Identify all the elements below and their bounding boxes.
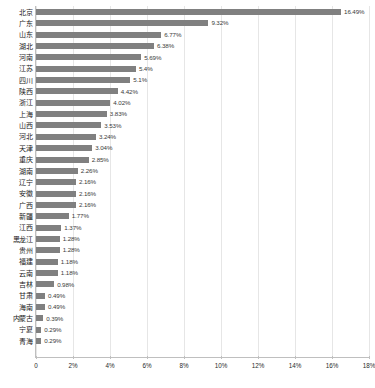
- x-tick-label: 16%: [326, 362, 339, 369]
- bar-row: 2.26%: [36, 166, 369, 177]
- bar-row: 0.49%: [36, 302, 369, 313]
- bar-row: 6.38%: [36, 41, 369, 52]
- category-label: 陕西: [19, 86, 33, 97]
- bar: [36, 213, 69, 219]
- x-axis-tick-labels: 02%4%6%8%10%12%14%16%18%: [36, 360, 369, 376]
- bar-row: 9.32%: [36, 18, 369, 29]
- x-tick-label: 18%: [363, 362, 375, 369]
- bar: [36, 88, 118, 94]
- bar-value-label: 3.83%: [110, 108, 127, 119]
- bar-row: 1.18%: [36, 268, 369, 279]
- bar: [36, 270, 58, 276]
- x-tickmark-16: [332, 356, 333, 359]
- x-tick-label: 4%: [105, 362, 114, 369]
- x-tick-label: 8%: [179, 362, 188, 369]
- bar-value-label: 0.49%: [48, 290, 65, 301]
- x-tick-label: 6%: [142, 362, 151, 369]
- bar-row: 1.28%: [36, 234, 369, 245]
- bar-value-label: 6.38%: [157, 40, 174, 51]
- bar: [36, 100, 110, 106]
- bar: [36, 281, 54, 287]
- x-tickmark-14: [295, 356, 296, 359]
- bar-row: 2.16%: [36, 200, 369, 211]
- bar: [36, 259, 58, 265]
- x-tickmark-12: [258, 356, 259, 359]
- bar-value-label: 5.69%: [144, 52, 161, 63]
- bar-value-label: 1.28%: [63, 244, 80, 255]
- bar-value-label: 1.18%: [61, 256, 78, 267]
- bar-row: 2.16%: [36, 177, 369, 188]
- bar: [36, 315, 43, 321]
- bar-row: 2.16%: [36, 188, 369, 199]
- category-label: 重庆: [19, 154, 33, 165]
- gridline-18: [369, 6, 370, 358]
- category-label: 安徽: [19, 188, 33, 199]
- bar-row: 1.37%: [36, 222, 369, 233]
- x-tick-label: 14%: [289, 362, 302, 369]
- bar-row: 0.49%: [36, 290, 369, 301]
- bar-row: 5.1%: [36, 75, 369, 86]
- category-label: 贵州: [19, 245, 33, 256]
- category-label: 内蒙古: [13, 313, 33, 324]
- bar-row: 5.4%: [36, 63, 369, 74]
- bar-value-label: 0.49%: [48, 301, 65, 312]
- category-label: 江西: [19, 222, 33, 233]
- category-axis-labels: 北京广东山东湖北河南江苏四川陕西浙江上海山西河北天津重庆湖南辽宁安徽广西新疆江西…: [0, 6, 33, 358]
- bar-row: 0.98%: [36, 279, 369, 290]
- bar: [36, 145, 92, 151]
- bar-value-label: 2.16%: [79, 188, 96, 199]
- x-tickmark-2: [73, 356, 74, 359]
- bar: [36, 66, 136, 72]
- bar-value-label: 0.98%: [57, 279, 74, 290]
- category-label: 山东: [19, 29, 33, 40]
- bar: [36, 111, 107, 117]
- bar: [36, 20, 208, 26]
- bar: [36, 191, 76, 197]
- category-label: 辽宁: [19, 177, 33, 188]
- x-tickmark-18: [369, 356, 370, 359]
- bar-value-label: 1.18%: [61, 267, 78, 278]
- bar-row: 1.77%: [36, 211, 369, 222]
- x-axis-line: [35, 357, 369, 358]
- bar-row: 16.49%: [36, 7, 369, 18]
- bar-value-label: 0.39%: [46, 313, 63, 324]
- x-tickmark-0: [36, 356, 37, 359]
- category-label: 海南: [19, 302, 33, 313]
- category-label: 湖南: [19, 166, 33, 177]
- bar-value-label: 0.29%: [44, 324, 61, 335]
- bar-value-label: 4.02%: [113, 97, 130, 108]
- bar-value-label: 1.28%: [63, 233, 80, 244]
- bar-value-label: 6.77%: [164, 29, 181, 40]
- bar-value-label: 16.49%: [344, 6, 364, 17]
- bar-row: 0.39%: [36, 313, 369, 324]
- category-label: 天津: [19, 143, 33, 154]
- bar-row: 0.29%: [36, 336, 369, 347]
- bar-value-label: 0.29%: [44, 335, 61, 346]
- category-label: 江苏: [19, 63, 33, 74]
- bar-value-label: 4.42%: [121, 86, 138, 97]
- category-label: 河北: [19, 131, 33, 142]
- x-tick-label: 10%: [215, 362, 228, 369]
- category-label: 四川: [19, 75, 33, 86]
- category-label: 新疆: [19, 211, 33, 222]
- bar-row: 0.29%: [36, 324, 369, 335]
- bar-value-label: 5.1%: [133, 74, 147, 85]
- bar-row: 1.18%: [36, 256, 369, 267]
- category-label: 甘肃: [19, 290, 33, 301]
- x-tick-label: 12%: [252, 362, 265, 369]
- bar-row: 1.28%: [36, 245, 369, 256]
- x-tick-label: 2%: [68, 362, 77, 369]
- bar-row: 3.04%: [36, 143, 369, 154]
- category-label: 湖北: [19, 41, 33, 52]
- bar: [36, 54, 141, 60]
- x-tick-label: 0: [34, 362, 38, 369]
- bar-row: 3.53%: [36, 120, 369, 131]
- category-label: 浙江: [19, 97, 33, 108]
- plot-area: 16.49%9.32%6.77%6.38%5.69%5.4%5.1%4.42%4…: [36, 6, 369, 358]
- bar: [36, 236, 60, 242]
- bar-value-label: 1.77%: [72, 210, 89, 221]
- bar-value-label: 3.04%: [95, 142, 112, 153]
- bar: [36, 77, 130, 83]
- bar-value-label: 9.32%: [211, 17, 228, 28]
